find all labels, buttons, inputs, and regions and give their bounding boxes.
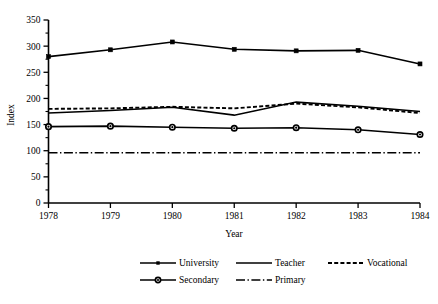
marker-circle-center — [171, 126, 173, 128]
x-axis-title: Year — [225, 229, 243, 239]
y-tick-label: 0 — [36, 198, 41, 208]
marker-circle-center — [47, 126, 49, 128]
series-vocational — [49, 104, 421, 113]
y-tick-label: 250 — [26, 68, 41, 78]
series-teacher — [49, 102, 421, 115]
marker-circle-center — [109, 125, 111, 127]
line-chart-svg: 050100150200250300350 197819791980198119… — [0, 0, 438, 304]
y-tick-label: 300 — [26, 42, 41, 52]
series-line-university — [49, 42, 421, 64]
legend-item-secondary[interactable]: Secondary — [140, 275, 219, 285]
chart-figure: 050100150200250300350 197819791980198119… — [0, 0, 438, 304]
legend-label: University — [179, 258, 219, 268]
legend-item-primary[interactable]: Primary — [236, 275, 306, 285]
y-axis-title: Index — [6, 104, 16, 126]
chart-series-group — [46, 40, 423, 153]
marker-square — [170, 40, 174, 44]
chart-legend: UniversityTeacherVocationalSecondaryPrim… — [140, 258, 408, 285]
y-tick-label: 150 — [26, 120, 41, 130]
marker-square — [232, 47, 236, 51]
legend-label: Teacher — [275, 258, 306, 268]
y-axis-ticks: 050100150200250300350 — [26, 15, 48, 208]
legend-label: Secondary — [179, 275, 219, 285]
y-tick-label: 50 — [31, 172, 41, 182]
y-tick-label: 200 — [26, 94, 41, 104]
legend-marker-square — [156, 261, 159, 264]
legend-item-vocational[interactable]: Vocational — [328, 258, 408, 268]
series-line-vocational — [49, 104, 421, 113]
marker-circle-center — [357, 129, 359, 131]
marker-square — [418, 62, 422, 66]
x-axis-ticks: 1978197919801981198219831984 — [39, 203, 430, 221]
x-tick-label: 1978 — [39, 211, 58, 221]
marker-circle-center — [295, 127, 297, 129]
marker-square — [294, 49, 298, 53]
x-tick-label: 1980 — [163, 211, 182, 221]
x-tick-label: 1982 — [287, 211, 306, 221]
marker-circle-center — [419, 133, 421, 135]
marker-square — [108, 48, 112, 52]
legend-item-teacher[interactable]: Teacher — [236, 258, 306, 268]
legend-label: Vocational — [367, 258, 408, 268]
y-tick-label: 350 — [26, 15, 41, 25]
x-tick-label: 1984 — [411, 211, 430, 221]
legend-marker-circle-center — [157, 279, 159, 281]
series-secondary — [46, 123, 423, 137]
marker-square — [356, 48, 360, 52]
legend-item-university[interactable]: University — [140, 258, 219, 268]
y-tick-label: 100 — [26, 146, 41, 156]
legend-label: Primary — [275, 275, 306, 285]
marker-circle-center — [233, 127, 235, 129]
series-university — [47, 40, 423, 66]
x-tick-label: 1979 — [101, 211, 120, 221]
marker-square — [47, 55, 51, 59]
x-tick-label: 1983 — [349, 211, 368, 221]
series-line-teacher — [49, 102, 421, 115]
x-tick-label: 1981 — [225, 211, 244, 221]
